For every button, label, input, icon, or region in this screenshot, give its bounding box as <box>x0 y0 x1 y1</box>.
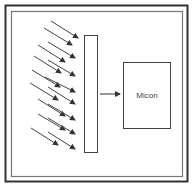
incoming-arrow <box>38 99 65 116</box>
incoming-arrow <box>30 83 58 100</box>
incoming-arrow <box>45 77 75 92</box>
sensor-panel <box>85 36 98 153</box>
incoming-arrow <box>48 132 75 149</box>
incoming-arrow <box>32 70 60 87</box>
incoming-arrow <box>48 118 75 134</box>
incoming-arrows <box>30 21 78 149</box>
incoming-arrow <box>48 60 75 76</box>
incoming-arrow <box>51 21 78 38</box>
diagram-canvas: Micon <box>0 0 193 188</box>
incoming-arrow <box>34 56 61 73</box>
incoming-arrow <box>48 104 75 120</box>
micon-label: Micon <box>136 91 157 100</box>
incoming-arrow <box>31 128 58 145</box>
incoming-arrow <box>38 45 65 62</box>
incoming-arrow <box>38 114 65 130</box>
